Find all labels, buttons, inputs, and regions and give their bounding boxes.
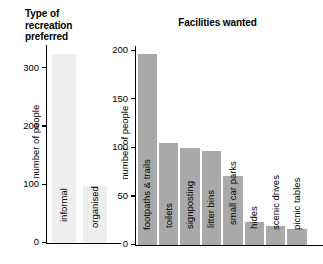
bar-organised: organised xyxy=(83,186,107,243)
recreation-y-axis-line xyxy=(46,45,47,243)
recreation-y-tick-200: 200 xyxy=(42,125,47,126)
bar-scenic-drives: scenic drives xyxy=(266,226,286,245)
bar-signposting: signposting xyxy=(180,148,200,245)
bar-footpaths-trails: footpaths & trails xyxy=(138,54,158,245)
facilities-chart-title: Facilities wanted xyxy=(130,17,305,29)
bar-label-informal: informal xyxy=(59,188,69,222)
bar-label-toilets: toilets xyxy=(164,203,174,228)
bar-label-small-car-parks: small car parks xyxy=(228,161,238,225)
recreation-chart-title: Type of recreation preferred xyxy=(25,8,72,43)
bar-picnic-tables: picnic tables xyxy=(287,229,307,246)
facilities-y-tick-100: 100 xyxy=(131,147,136,148)
bar-litter-bins: litter bins xyxy=(202,151,222,245)
bar-label-litter-bins: litter bins xyxy=(207,189,217,227)
bar-label-scenic-drives: scenic drives xyxy=(271,175,281,230)
bar-label-hides: hides xyxy=(250,206,260,229)
facilities-y-tick-150: 150 xyxy=(131,98,136,99)
bar-small-car-parks: small car parks xyxy=(223,176,243,245)
facilities-y-tick-200: 200 xyxy=(131,50,136,51)
bar-informal: informal xyxy=(52,54,76,243)
recreation-x-axis-line xyxy=(46,243,121,244)
facilities-plot-area: number of people 0 50 100 150 200 footpa… xyxy=(136,46,319,245)
bar-label-picnic-tables: picnic tables xyxy=(292,177,302,229)
recreation-y-tick-100: 100 xyxy=(42,184,47,185)
recreation-chart-panel: Type of recreation preferred number of p… xyxy=(0,0,112,264)
facilities-y-tick-0: 0 xyxy=(131,244,136,245)
bar-hides: hides xyxy=(245,222,265,245)
recreation-y-tick-300: 300 xyxy=(42,67,47,68)
facilities-x-axis-line xyxy=(135,245,323,246)
recreation-plot-area: number of people 0 100 200 300 informal … xyxy=(47,45,109,243)
bar-label-organised: organised xyxy=(90,186,100,228)
recreation-y-axis-label: number of people xyxy=(31,105,41,179)
bar-label-signposting: signposting xyxy=(185,180,195,228)
facilities-y-axis-line xyxy=(135,46,136,245)
bar-label-footpaths-trails: footpaths & trails xyxy=(143,159,153,230)
facilities-chart-panel: Facilities wanted number of people 0 50 … xyxy=(112,0,321,264)
bar-toilets: toilets xyxy=(159,143,179,245)
facilities-y-tick-50: 50 xyxy=(131,195,136,196)
recreation-y-tick-0: 0 xyxy=(42,242,47,243)
